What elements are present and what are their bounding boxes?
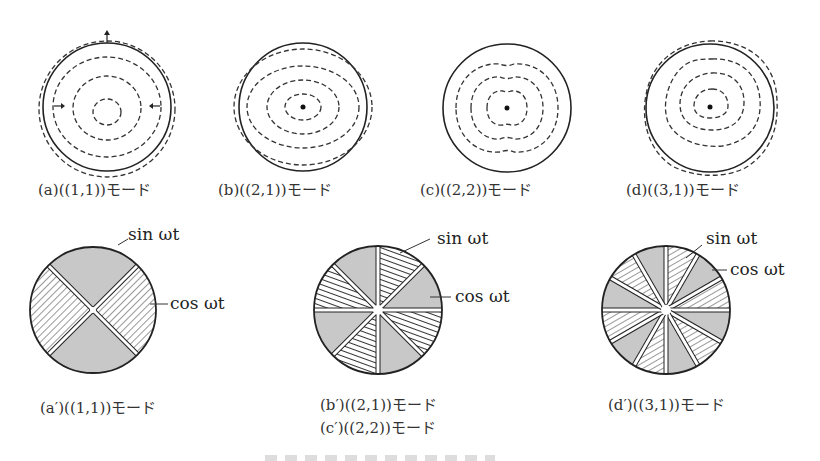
caption-c: (c)((2,2))モード [420, 181, 532, 199]
caption-a-prime: (a′)((1,1))モード [40, 399, 156, 417]
cos-label: cos ωt [170, 293, 225, 313]
mode-diagram: (a)((1,1))モード (b)((2,1))モード (c)((2,2))モー… [0, 0, 820, 461]
sin-label: sin ωt [706, 228, 757, 248]
caption-b-prime: (b′)((2,1))モード [320, 396, 437, 414]
center-hub [661, 305, 671, 315]
caption-d-prime: (d′)((3,1))モード [608, 396, 725, 414]
arrow-right-icon [54, 103, 65, 109]
contour-line [53, 57, 161, 157]
arrow-left-icon [149, 103, 160, 109]
mode-bc-prime-sectors [314, 246, 442, 374]
center-dot [708, 105, 713, 110]
caption-b: (b)((2,1))モード [218, 181, 332, 199]
figure-caption-cutoff [265, 455, 495, 461]
mode-d-diagram: (d)((3,1))モード [626, 41, 777, 199]
sin-leader-line [118, 239, 128, 245]
cos-label: cos ωt [730, 259, 785, 279]
sin-leader-line [400, 239, 430, 253]
mode-a-diagram: (a)((1,1))モード [38, 30, 175, 199]
mode-c-diagram: (c)((2,2))モード [420, 44, 571, 199]
sin-label: sin ωt [128, 224, 179, 244]
mode-a-prime-sectors [30, 247, 156, 373]
contour-line [694, 89, 728, 118]
caption-c-prime: (c′)((2,2))モード [320, 419, 436, 437]
cos-label: cos ωt [455, 286, 510, 306]
caption-d: (d)((3,1))モード [626, 181, 740, 199]
contour-line [73, 76, 141, 140]
mode-b-diagram: (b)((2,1))モード [218, 43, 372, 199]
center-hub [90, 307, 96, 313]
contour-line [680, 73, 744, 130]
caption-a: (a)((1,1))モード [38, 181, 151, 199]
center-dot [505, 106, 510, 111]
center-dot [301, 105, 306, 110]
mode-d-prime-sectors [602, 246, 730, 374]
sin-label: sin ωt [437, 228, 488, 248]
center-hub [373, 305, 383, 315]
contour-line [93, 99, 121, 125]
